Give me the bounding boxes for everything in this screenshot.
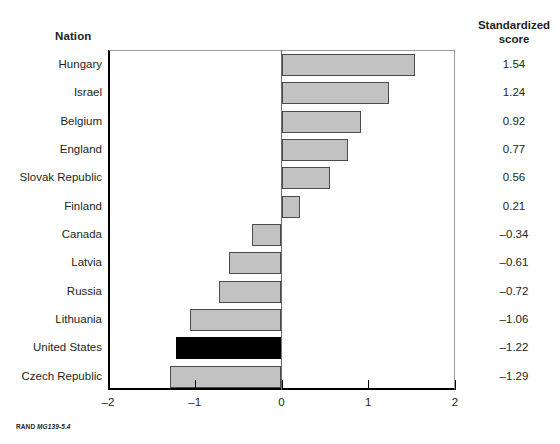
- score-value-finland: 0.21: [470, 200, 558, 212]
- nation-label-column: HungaryIsraelBelgiumEnglandSlovak Republ…: [0, 0, 102, 444]
- nation-label-canada: Canada: [2, 228, 102, 240]
- nation-label-lithuania: Lithuania: [2, 313, 102, 325]
- xtick-label-3: 1: [348, 396, 388, 408]
- xtick-label-1: –1: [175, 396, 215, 408]
- score-value-england: 0.77: [470, 143, 558, 155]
- score-value-canada: –0.34: [470, 228, 558, 240]
- bar-russia: [219, 281, 281, 303]
- footer-code: MG139-5.4: [37, 423, 70, 430]
- xtick-mark-3: [368, 380, 369, 390]
- xtick-label-0: –2: [88, 396, 128, 408]
- score-value-hungary: 1.54: [470, 58, 558, 70]
- score-value-russia: –0.72: [470, 285, 558, 297]
- score-value-czech-republic: –1.29: [470, 370, 558, 382]
- nation-label-finland: Finland: [2, 200, 102, 212]
- bar-canada: [252, 224, 281, 246]
- chart-figure: Nation Standardized score HungaryIsraelB…: [0, 0, 560, 444]
- bar-hungary: [282, 54, 416, 76]
- bar-england: [282, 139, 349, 161]
- score-value-latvia: –0.61: [470, 256, 558, 268]
- bar-slovak-republic: [282, 167, 331, 189]
- nation-label-israel: Israel: [2, 86, 102, 98]
- nation-label-czech-republic: Czech Republic: [2, 370, 102, 382]
- bar-czech-republic: [170, 366, 282, 388]
- nation-label-russia: Russia: [2, 285, 102, 297]
- nation-label-latvia: Latvia: [2, 256, 102, 268]
- footer-prefix: RAND: [16, 423, 37, 430]
- xtick-mark-4: [455, 380, 456, 390]
- score-value-slovak-republic: 0.56: [470, 171, 558, 183]
- nation-label-belgium: Belgium: [2, 115, 102, 127]
- bar-israel: [282, 82, 390, 104]
- xtick-mark-0: [108, 380, 109, 390]
- xtick-mark-2: [282, 380, 283, 390]
- score-value-united-states: –1.22: [470, 341, 558, 353]
- xtick-label-2: 0: [262, 396, 302, 408]
- score-value-column: 1.541.240.920.770.560.21–0.34–0.61–0.72–…: [470, 0, 558, 444]
- nation-label-slovak-republic: Slovak Republic: [2, 171, 102, 183]
- xtick-mark-1: [195, 380, 196, 390]
- bar-lithuania: [190, 309, 282, 331]
- score-value-belgium: 0.92: [470, 115, 558, 127]
- score-value-israel: 1.24: [470, 86, 558, 98]
- bar-finland: [282, 196, 300, 218]
- score-value-lithuania: –1.06: [470, 313, 558, 325]
- figure-source-note: RAND MG139-5.4: [16, 423, 71, 430]
- xtick-label-4: 2: [435, 396, 475, 408]
- nation-label-united-states: United States: [2, 341, 102, 353]
- nation-label-hungary: Hungary: [2, 58, 102, 70]
- nation-label-england: England: [2, 143, 102, 155]
- bar-belgium: [282, 111, 362, 133]
- bar-latvia: [229, 252, 282, 274]
- bar-united-states: [176, 337, 282, 359]
